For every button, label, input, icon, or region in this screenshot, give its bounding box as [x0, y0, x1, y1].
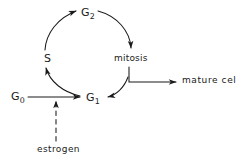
node-label-g2: G2: [81, 7, 95, 18]
cell-cycle-diagram: G2 S mitosis G1 G0 mature cells estrogen: [0, 0, 236, 161]
node-label-mitosis: mitosis: [114, 54, 148, 63]
node-label-g2-subscript: 2: [90, 12, 95, 21]
node-label-mature-cells-main: mature cells: [182, 75, 236, 85]
node-label-g0-subscript: 0: [20, 96, 25, 105]
node-label-g1-main: G: [86, 91, 95, 104]
node-label-mitosis-main: mitosis: [114, 53, 148, 63]
node-label-s-main: S: [44, 52, 51, 65]
node-label-g0: G0: [11, 91, 25, 102]
node-label-g2-main: G: [81, 6, 90, 19]
node-label-g1-subscript: 1: [95, 97, 100, 106]
node-label-s: S: [44, 53, 51, 64]
edge-g1-to-s: [46, 68, 80, 96]
node-label-estrogen-main: estrogen: [37, 144, 80, 154]
edge-mitosis-to-mature-cells: [129, 67, 176, 82]
node-label-g0-main: G: [11, 90, 20, 103]
node-label-estrogen: estrogen: [37, 145, 80, 154]
edge-mitosis-to-g1: [108, 77, 128, 97]
node-label-g1: G1: [86, 92, 100, 103]
node-label-mature-cells: mature cells: [182, 76, 236, 85]
edge-s-to-g2: [45, 11, 76, 50]
edge-g2-to-mitosis: [98, 11, 131, 48]
